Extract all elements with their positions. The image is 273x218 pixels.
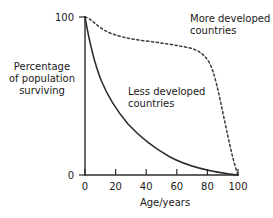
y-axis-title-line-1: Percentage — [14, 61, 70, 72]
x-tick-label-0: 0 — [82, 181, 88, 192]
annotation-more-developed-line-1: More developed — [190, 13, 270, 24]
annotation-more-developed-line-2: countries — [190, 25, 236, 36]
x-tick-label-80: 80 — [201, 181, 214, 192]
x-tick-label-20: 20 — [109, 181, 122, 192]
x-axis-title: Age/years — [140, 197, 190, 208]
y-tick-label-100: 100 — [55, 12, 74, 23]
y-tick-label-0: 0 — [68, 170, 74, 181]
annotation-less-developed-line-1: Less developed — [128, 86, 205, 97]
chart-figure: 100 0 0 20 40 60 80 100 Age/years Percen… — [0, 0, 273, 218]
annotation-less-developed-line-2: countries — [128, 98, 174, 109]
x-tick-label-100: 100 — [228, 181, 247, 192]
survivorship-curve-chart: 100 0 0 20 40 60 80 100 Age/years Percen… — [0, 0, 273, 218]
x-tick-label-40: 40 — [140, 181, 153, 192]
y-axis-title-line-2: of population — [9, 73, 75, 84]
y-axis-title-line-3: surviving — [19, 85, 65, 96]
x-tick-label-60: 60 — [170, 181, 183, 192]
